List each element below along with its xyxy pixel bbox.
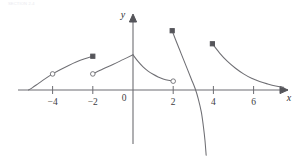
x-axis-label: x xyxy=(286,92,292,103)
open-circle-marker xyxy=(50,72,55,77)
x-tick-label: 2 xyxy=(171,97,176,107)
open-circle-marker xyxy=(171,79,176,84)
origin-label: 0 xyxy=(122,93,127,103)
axes-group xyxy=(18,14,288,144)
open-circle-marker xyxy=(91,72,96,77)
x-axis-tick-labels: −4−2246 xyxy=(48,97,257,107)
x-tick-label: 4 xyxy=(211,97,216,107)
y-axis-arrowhead xyxy=(129,14,136,22)
curve-branches xyxy=(28,31,283,156)
x-tick-label: 6 xyxy=(251,97,256,107)
watermark-text: SECTION 2.4 xyxy=(8,1,35,6)
filled-square-marker xyxy=(170,29,174,33)
curve-branch-3 xyxy=(133,55,173,81)
curve-branch-1 xyxy=(28,56,92,90)
curve-branch-5 xyxy=(212,44,283,88)
x-tick-label: −4 xyxy=(48,97,58,107)
function-graph-plot: −4−2246 0 x y xyxy=(0,0,305,164)
filled-square-marker xyxy=(210,42,214,46)
curve-branch-4 xyxy=(172,31,206,156)
x-tick-label: −2 xyxy=(88,97,98,107)
y-axis-label: y xyxy=(120,9,126,20)
graph-figure: SECTION 2.4 −4−2246 0 x y xyxy=(0,0,305,164)
curve-branch-2 xyxy=(93,55,133,74)
filled-square-marker xyxy=(91,54,95,58)
